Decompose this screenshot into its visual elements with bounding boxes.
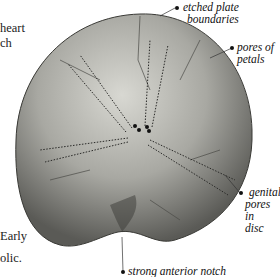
label-pores-of-petals: pores of petals bbox=[237, 41, 280, 65]
label-etched-plate-boundaries: etched plate boundaries bbox=[183, 1, 239, 25]
figure: heart ch Early olic. etched plate bounda… bbox=[0, 0, 280, 277]
label-dot bbox=[175, 6, 179, 10]
body-text-fragment: Early bbox=[0, 228, 27, 244]
label-dot bbox=[121, 270, 125, 274]
label-anterior-notch: strong anterior notch bbox=[128, 265, 226, 277]
body-text-fragment: heart bbox=[0, 20, 25, 36]
body-text-fragment: ch bbox=[0, 35, 12, 51]
body-text-fragment: olic. bbox=[0, 250, 22, 266]
label-dot bbox=[239, 191, 243, 195]
label-dot bbox=[230, 46, 234, 50]
label-genital-pores: genital pores in disc bbox=[245, 186, 280, 234]
